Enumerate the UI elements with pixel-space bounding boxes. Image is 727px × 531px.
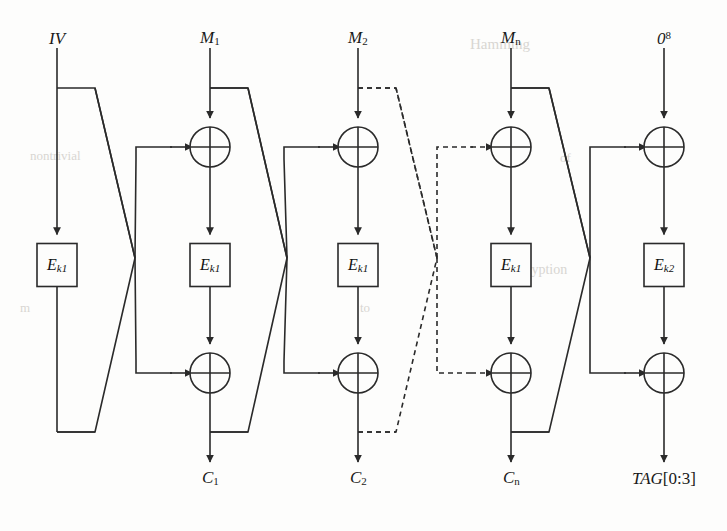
- xor-gate: [644, 353, 684, 393]
- input-label-m1: M1: [200, 29, 220, 47]
- cipher-box-label-e-m2: Ek1: [348, 257, 368, 274]
- output-label-cn: Cn: [503, 469, 520, 487]
- output-label-c2: C2: [350, 469, 367, 487]
- cipher-box-label-e-iv: Ek1: [47, 257, 67, 274]
- cipher-box-label-e-m1: Ek1: [200, 257, 220, 274]
- output-label-tag: TAG[0:3]: [632, 470, 696, 487]
- diagram-canvas: HammingnontrivialofEncryptionmto IVM1M2M…: [0, 0, 727, 531]
- xor-gate: [190, 353, 230, 393]
- xor-gate: [491, 127, 531, 167]
- xor-gate: [644, 127, 684, 167]
- cipher-box-label-e-mn: Ek1: [501, 257, 521, 274]
- input-label-iv: IV: [49, 30, 65, 47]
- cipher-box-label-e-tag: Ek2: [654, 257, 674, 274]
- input-label-mn: Mn: [501, 29, 521, 47]
- xor-gate: [190, 127, 230, 167]
- input-label-z8: 08: [657, 30, 671, 47]
- input-label-m2: M2: [348, 29, 368, 47]
- output-label-c1: C1: [202, 469, 219, 487]
- xor-gate: [338, 127, 378, 167]
- xor-gate: [338, 353, 378, 393]
- xor-gate: [491, 353, 531, 393]
